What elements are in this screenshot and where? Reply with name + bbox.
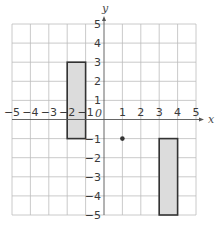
y-axis-arrow-icon xyxy=(102,16,106,21)
y-tick-label: −3 xyxy=(85,171,101,184)
x-tick-label: −1 xyxy=(77,106,93,119)
y-axis-label: y xyxy=(101,2,109,15)
y-tick-label: −4 xyxy=(85,190,101,203)
y-tick-label: −5 xyxy=(85,209,101,222)
x-tick-label: 2 xyxy=(137,106,144,119)
points-layer xyxy=(120,136,125,141)
rectangle-b xyxy=(159,139,177,215)
x-tick-label: 3 xyxy=(156,106,163,119)
x-tick-label: 1 xyxy=(119,106,126,119)
y-tick-label: 4 xyxy=(94,37,101,50)
x-tick-label: 5 xyxy=(193,106,200,119)
y-tick-label: 2 xyxy=(94,75,101,88)
y-tick-label: 5 xyxy=(94,18,101,31)
x-tick-label: 4 xyxy=(174,106,181,119)
origin-label: 0 xyxy=(95,107,102,120)
x-axis-label: x xyxy=(208,113,215,126)
rectangle-a xyxy=(67,62,85,138)
x-axis-arrow-icon xyxy=(199,118,204,122)
y-tick-label: −1 xyxy=(85,133,101,146)
x-tick-label: −4 xyxy=(22,106,38,119)
coordinate-grid: x y 0 −5−4−3−2−11234554321−1−2−3−4−5 xyxy=(0,0,219,226)
point-1-neg1 xyxy=(120,136,125,141)
y-tick-label: −2 xyxy=(85,152,101,165)
y-tick-label: 1 xyxy=(94,94,101,107)
y-tick-label: 3 xyxy=(94,56,101,69)
x-tick-label: −2 xyxy=(59,106,75,119)
x-tick-label: −3 xyxy=(41,106,57,119)
x-tick-label: −5 xyxy=(4,106,20,119)
